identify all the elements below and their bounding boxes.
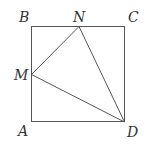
label-a: A — [16, 123, 28, 139]
label-b: B — [18, 9, 29, 25]
label-n: N — [72, 9, 86, 25]
label-d: D — [126, 124, 138, 140]
segment-nd — [79, 27, 125, 123]
segment-mn — [32, 27, 80, 75]
segment-md — [32, 75, 125, 123]
square-abcd — [32, 27, 125, 122]
label-m: M — [13, 67, 29, 83]
label-c: C — [128, 9, 139, 25]
geometry-diagram: B N C M A D — [0, 0, 147, 148]
